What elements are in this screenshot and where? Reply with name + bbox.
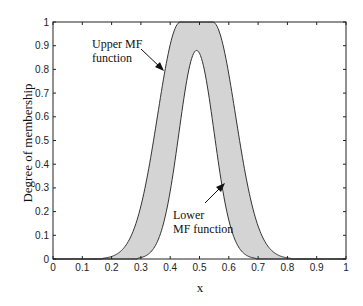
y-tick-label: 0.6: [35, 111, 49, 122]
x-tick-label: 0.4: [163, 262, 177, 273]
y-tick-label: 0.5: [35, 135, 49, 146]
x-tick-label: 0.5: [193, 262, 207, 273]
x-tick-label: 0.3: [134, 262, 148, 273]
x-tick-label: 0.8: [280, 262, 294, 273]
y-tick-label: 0.2: [35, 206, 49, 217]
upper-mf-label-line2: function: [92, 51, 132, 65]
x-tick-label: 0: [50, 262, 56, 273]
upper-mf-annotation: Upper MF function: [92, 37, 164, 71]
y-tick-label: 1: [43, 17, 49, 28]
y-tick-label: 0.4: [35, 159, 49, 170]
x-tick-label: 0.2: [105, 262, 119, 273]
y-tick-label: 0.3: [35, 182, 49, 193]
lower-mf-label-line2: MF function: [173, 222, 233, 236]
y-axis-label: Degree of membership: [20, 83, 35, 202]
lower-mf-label-line1: Lower: [173, 208, 204, 222]
upper-mf-label-line1: Upper MF: [92, 37, 143, 51]
y-tick-label: 0.9: [35, 40, 49, 51]
x-tick-label: 0.6: [222, 262, 236, 273]
x-axis-label: x: [197, 280, 204, 295]
y-tick-label: 0.8: [35, 64, 49, 75]
y-tick-label: 0: [43, 254, 49, 265]
y-tick-label: 0.1: [35, 230, 49, 241]
x-tick-label: 1: [343, 262, 349, 273]
x-tick-label: 0.7: [251, 262, 265, 273]
x-tick-label: 0.9: [310, 262, 324, 273]
x-tick-label: 0.1: [75, 262, 89, 273]
y-tick-label: 0.7: [35, 88, 49, 99]
membership-chart: 00.10.20.30.40.50.60.70.80.91 00.10.20.3…: [0, 0, 363, 306]
